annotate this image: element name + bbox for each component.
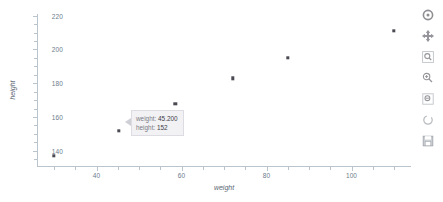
x-axis-title: weight bbox=[214, 184, 234, 191]
x-axis-tick bbox=[373, 167, 374, 170]
data-point[interactable] bbox=[392, 29, 395, 32]
plotly-chart[interactable]: 406080100140160180200220 weight height w… bbox=[0, 0, 443, 202]
y-axis-tick-label: 200 bbox=[52, 46, 63, 53]
hover-tooltip: weight: 45.200 height: 152 bbox=[131, 110, 184, 136]
x-axis-tick bbox=[203, 167, 204, 170]
y-axis-tick bbox=[34, 33, 37, 34]
x-axis-tick-label: 60 bbox=[178, 172, 185, 179]
tooltip-value: 45.200 bbox=[158, 115, 178, 122]
x-axis-tick bbox=[330, 167, 331, 170]
y-axis-tick-major bbox=[33, 49, 37, 50]
y-axis-tick bbox=[34, 109, 37, 110]
zoom-icon[interactable] bbox=[419, 48, 437, 66]
y-axis-tick-major bbox=[33, 16, 37, 17]
reset-axes-icon[interactable] bbox=[419, 132, 437, 150]
x-axis-tick bbox=[309, 167, 310, 170]
tooltip-row: weight: 45.200 bbox=[136, 114, 179, 123]
y-axis-tick bbox=[34, 100, 37, 101]
x-axis-tick bbox=[75, 167, 76, 170]
y-axis-tick bbox=[34, 159, 37, 160]
data-point[interactable] bbox=[231, 76, 234, 79]
y-axis-tick bbox=[34, 134, 37, 135]
data-point[interactable] bbox=[52, 154, 55, 157]
x-axis-tick-label: 40 bbox=[93, 172, 100, 179]
x-axis-tick bbox=[288, 167, 289, 170]
y-axis-tick bbox=[34, 66, 37, 67]
x-axis-tick bbox=[54, 167, 55, 170]
data-point[interactable] bbox=[173, 102, 176, 105]
y-axis-tick bbox=[34, 142, 37, 143]
x-axis-tick-major bbox=[97, 167, 98, 171]
x-axis-tick bbox=[394, 167, 395, 170]
data-point[interactable] bbox=[117, 129, 120, 132]
y-axis-tick bbox=[34, 92, 37, 93]
data-point[interactable] bbox=[286, 56, 289, 59]
x-axis-tick bbox=[160, 167, 161, 170]
x-axis-tick bbox=[245, 167, 246, 170]
zoom-out-icon[interactable] bbox=[419, 90, 437, 108]
autoscale-icon[interactable] bbox=[419, 111, 437, 129]
tooltip-key: height: bbox=[136, 124, 155, 131]
y-axis-tick bbox=[34, 41, 37, 42]
x-axis-tick-major bbox=[267, 167, 268, 171]
y-axis-tick-major bbox=[33, 151, 37, 152]
tooltip-key: weight: bbox=[136, 115, 156, 122]
x-axis-tick bbox=[139, 167, 140, 170]
y-axis-tick bbox=[34, 75, 37, 76]
plot-area[interactable] bbox=[37, 14, 411, 166]
y-axis-tick-label: 220 bbox=[52, 12, 63, 19]
x-axis-tick bbox=[224, 167, 225, 170]
plotly-logo-icon[interactable] bbox=[419, 6, 437, 24]
y-axis-line bbox=[37, 14, 38, 166]
y-axis-tick-label: 160 bbox=[52, 114, 63, 121]
zoom-in-icon[interactable] bbox=[419, 69, 437, 87]
x-axis-tick-label: 80 bbox=[263, 172, 270, 179]
y-axis-tick-major bbox=[33, 83, 37, 84]
modebar[interactable] bbox=[416, 6, 440, 150]
y-axis-title: height bbox=[9, 80, 16, 99]
tooltip-value: 152 bbox=[157, 124, 168, 131]
x-axis-tick-major bbox=[182, 167, 183, 171]
y-axis-tick bbox=[34, 24, 37, 25]
y-axis-tick-major bbox=[33, 117, 37, 118]
y-axis-tick bbox=[34, 125, 37, 126]
x-axis-tick-major bbox=[352, 167, 353, 171]
y-axis-tick bbox=[34, 58, 37, 59]
x-axis-tick-label: 100 bbox=[346, 172, 357, 179]
tooltip-row: height: 152 bbox=[136, 123, 179, 132]
pan-icon[interactable] bbox=[419, 27, 437, 45]
y-axis-tick-label: 180 bbox=[52, 80, 63, 87]
x-axis-tick bbox=[118, 167, 119, 170]
